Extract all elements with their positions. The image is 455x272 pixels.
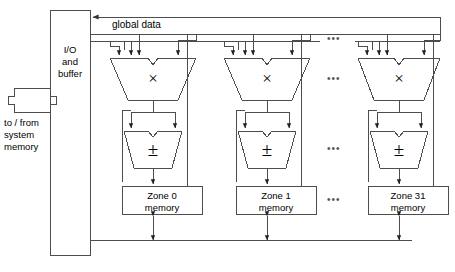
zone-0-addsub-symbol: ± (137, 139, 169, 161)
zone-31-mul-in4 (424, 34, 440, 55)
diagram-svg (0, 0, 455, 272)
zone-0-accum-rail (122, 110, 131, 182)
global-data-label: global data (112, 19, 192, 30)
zone-1-add-in-right (267, 112, 289, 128)
ellipsis-multiplier-row: ••• (327, 73, 341, 84)
ellipsis-top-bus: ••• (327, 33, 341, 44)
zone-0-add-in-right (153, 112, 175, 128)
zone-1-addsub-symbol: ± (251, 139, 283, 161)
zone-31-memory-label-line2: memory (368, 202, 448, 213)
io-buffer-label-line2: and (52, 56, 88, 67)
zone-0-memory-label-line2: memory (122, 202, 202, 213)
io-buffer-label-line3: buffer (52, 68, 88, 79)
ellipsis-adder-row: ••• (327, 143, 341, 154)
zone-31-accum-rail (368, 110, 377, 182)
zone-31-memory-label-line1: Zone 31 (368, 190, 448, 201)
system-memory-label-line1: to / from (4, 117, 62, 128)
ellipsis-memory-row: ••• (327, 194, 341, 205)
system-memory-label-line3: memory (4, 141, 62, 152)
zone-0-add-in-left (131, 112, 153, 128)
zone-0-multiply-symbol: × (137, 69, 169, 89)
zone-31-add-in-left (377, 112, 399, 128)
zone-1-multiply-symbol: × (251, 69, 283, 89)
zone-0-bus-stub (110, 41, 119, 46)
system-memory-label-line2: system (4, 129, 62, 140)
zone-1-bus-stub (224, 41, 233, 46)
io-buffer-label-line1: I/O (52, 44, 88, 55)
zone-0-memory-label-line1: Zone 0 (122, 190, 202, 201)
zone-1-add-in-left (245, 112, 267, 128)
system-memory-arrow (8, 88, 56, 112)
zone-31-addsub-symbol: ± (383, 139, 415, 161)
zone-1-memory-label-line1: Zone 1 (236, 190, 316, 201)
zone-31-multiply-symbol: × (383, 69, 415, 89)
zone-31-bus-stub (358, 41, 367, 46)
zone-1-memory-label-line2: memory (236, 202, 316, 213)
diagram-canvas: I/O and buffer to / from system memory g… (0, 0, 455, 272)
zone-1-accum-rail (236, 110, 245, 182)
zone-31-add-in-right (399, 112, 421, 128)
